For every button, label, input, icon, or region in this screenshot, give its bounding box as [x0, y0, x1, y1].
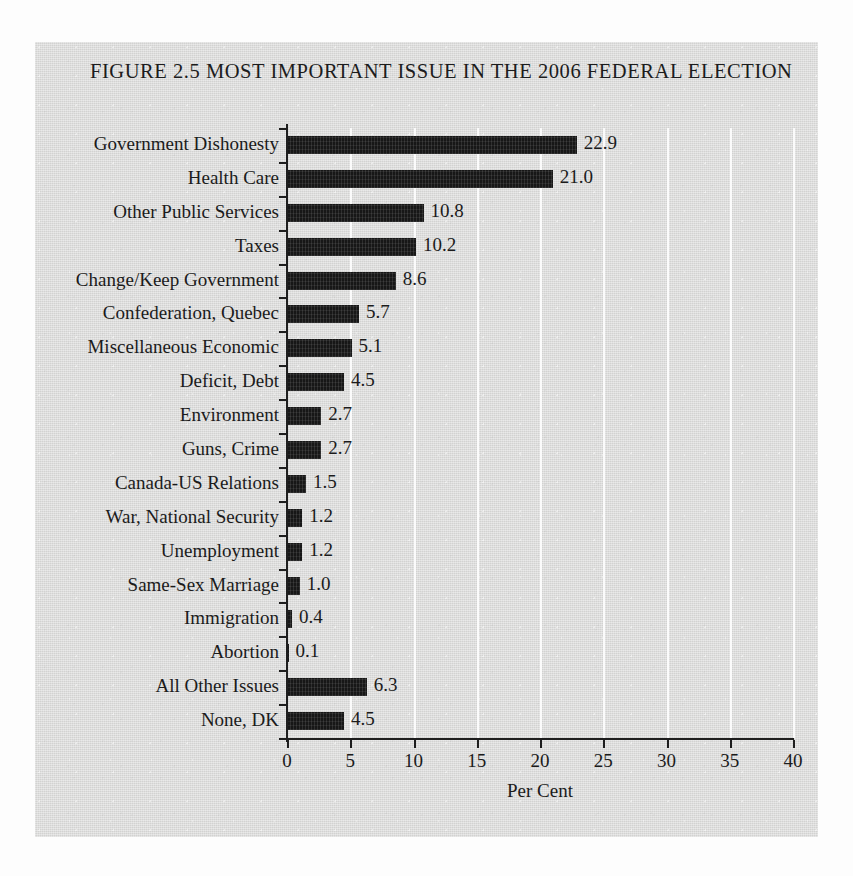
- bar-row: 4.5: [287, 365, 793, 399]
- bar: [287, 136, 577, 154]
- y-axis-tick: [279, 196, 287, 198]
- x-axis-tick-label: 30: [637, 750, 697, 772]
- bar-value-label: 8.6: [403, 268, 427, 290]
- x-axis-tick: [793, 740, 795, 748]
- bar-row: 1.2: [287, 535, 793, 569]
- bar-row: 1.5: [287, 467, 793, 501]
- category-label: Deficit, Debt: [19, 370, 279, 392]
- bar-row: 4.5: [287, 704, 793, 738]
- x-axis-tick: [540, 740, 542, 748]
- category-label: Change/Keep Government: [19, 269, 279, 291]
- category-label: Health Care: [19, 167, 279, 189]
- bar-row: 2.7: [287, 399, 793, 433]
- bar-value-label: 2.7: [328, 437, 352, 459]
- bar-value-label: 10.8: [431, 200, 464, 222]
- category-label: Other Public Services: [19, 201, 279, 223]
- bar-row: 10.8: [287, 196, 793, 230]
- category-label: Miscellaneous Economic: [19, 336, 279, 358]
- x-axis-tick-label: 20: [510, 750, 570, 772]
- bar-row: 0.4: [287, 602, 793, 636]
- y-axis-tick: [279, 399, 287, 401]
- x-axis-tick: [603, 740, 605, 748]
- bar: [287, 577, 300, 595]
- category-label: Taxes: [19, 235, 279, 257]
- x-axis-tick: [414, 740, 416, 748]
- bar: [287, 170, 553, 188]
- bar-row: 1.2: [287, 501, 793, 535]
- bar: [287, 475, 306, 493]
- y-axis-tick: [279, 331, 287, 333]
- category-label: Abortion: [19, 641, 279, 663]
- bar: [287, 238, 416, 256]
- y-axis-tick: [279, 230, 287, 232]
- y-axis-tick: [279, 433, 287, 435]
- bar-row: 0.1: [287, 636, 793, 670]
- bar: [287, 204, 424, 222]
- category-label: Unemployment: [19, 540, 279, 562]
- bar-value-label: 1.0: [307, 573, 331, 595]
- y-axis-tick: [279, 535, 287, 537]
- x-axis-tick: [477, 740, 479, 748]
- bar-row: 8.6: [287, 264, 793, 298]
- bar-value-label: 22.9: [584, 132, 617, 154]
- bar-row: 5.1: [287, 331, 793, 365]
- bar: [287, 373, 344, 391]
- x-axis-tick: [287, 740, 289, 748]
- plot-area: 22.921.010.810.28.65.75.14.52.72.71.51.2…: [287, 128, 793, 738]
- x-axis-tick: [730, 740, 732, 748]
- bar: [287, 712, 344, 730]
- category-label: Canada-US Relations: [19, 472, 279, 494]
- bar-row: 6.3: [287, 670, 793, 704]
- bar-value-label: 1.2: [309, 505, 333, 527]
- y-axis-tick: [279, 264, 287, 266]
- bar-row: 22.9: [287, 128, 793, 162]
- bar: [287, 339, 352, 357]
- category-label: All Other Issues: [19, 675, 279, 697]
- x-axis-tick-label: 40: [763, 750, 823, 772]
- bar-value-label: 21.0: [560, 166, 593, 188]
- bar-row: 10.2: [287, 230, 793, 264]
- x-axis-title: Per Cent: [287, 780, 793, 802]
- category-axis-labels: Government DishonestyHealth CareOther Pu…: [17, 128, 279, 738]
- bar: [287, 441, 321, 459]
- bar-row: 2.7: [287, 433, 793, 467]
- figure-root: FIGURE 2.5 MOST IMPORTANT ISSUE IN THE 2…: [0, 0, 853, 876]
- figure-title: FIGURE 2.5 MOST IMPORTANT ISSUE IN THE 2…: [90, 60, 790, 83]
- bar-value-label: 5.1: [359, 335, 383, 357]
- category-label: Immigration: [19, 607, 279, 629]
- gridline: [793, 128, 795, 738]
- y-axis-tick: [279, 636, 287, 638]
- y-axis-tick: [279, 365, 287, 367]
- x-axis-tick-label: 25: [573, 750, 633, 772]
- y-axis-tick: [279, 501, 287, 503]
- category-label: Same-Sex Marriage: [19, 574, 279, 596]
- category-label: Confederation, Quebec: [19, 302, 279, 324]
- y-axis-tick: [279, 602, 287, 604]
- bar-value-label: 0.4: [299, 606, 323, 628]
- x-axis-tick-label: 10: [384, 750, 444, 772]
- y-axis-tick: [279, 297, 287, 299]
- bar-row: 5.7: [287, 297, 793, 331]
- bar-value-label: 10.2: [423, 234, 456, 256]
- bar-value-label: 4.5: [351, 369, 375, 391]
- y-axis-tick: [279, 162, 287, 164]
- bar-value-label: 4.5: [351, 708, 375, 730]
- bar: [287, 543, 302, 561]
- category-label: None, DK: [19, 709, 279, 731]
- bar-value-label: 5.7: [366, 301, 390, 323]
- category-label: Environment: [19, 404, 279, 426]
- y-axis-tick: [279, 670, 287, 672]
- bar: [287, 407, 321, 425]
- bar-row: 1.0: [287, 569, 793, 603]
- bar: [287, 272, 396, 290]
- figure-panel: FIGURE 2.5 MOST IMPORTANT ISSUE IN THE 2…: [35, 42, 818, 837]
- bar-value-label: 2.7: [328, 403, 352, 425]
- x-axis-tick-label: 35: [700, 750, 760, 772]
- x-axis-tick-label: 5: [320, 750, 380, 772]
- bar-value-label: 0.1: [296, 640, 320, 662]
- category-label: War, National Security: [19, 506, 279, 528]
- bar: [287, 509, 302, 527]
- bar-value-label: 6.3: [374, 674, 398, 696]
- bar-row: 21.0: [287, 162, 793, 196]
- bar: [287, 678, 367, 696]
